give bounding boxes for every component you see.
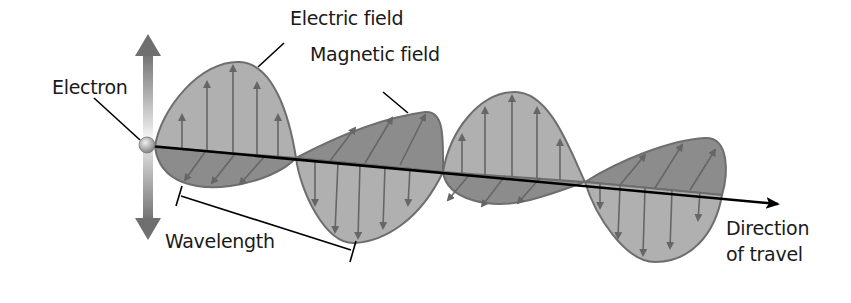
electron-label: Electron xyxy=(52,77,128,99)
electric-field-leader-line xyxy=(258,43,284,67)
magnetic-field-label: Magnetic field xyxy=(310,44,440,66)
direction-label-line2: of travel xyxy=(726,244,803,266)
direction-label-line1: Direction xyxy=(726,218,809,240)
electric-field-label: Electric field xyxy=(290,8,403,30)
wavelength-label: Wavelength xyxy=(165,231,275,253)
magnetic-field-leader-line xyxy=(383,92,408,113)
electron-icon xyxy=(139,137,155,153)
electron-leader-line xyxy=(94,98,140,140)
